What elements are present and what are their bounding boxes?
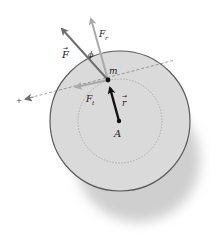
line-of-action-arrow — [26, 97, 34, 99]
angle-label: ϕ — [88, 50, 94, 59]
radial-force-label: F r — [98, 29, 109, 41]
svg-text:r: r — [105, 34, 109, 41]
mass-point — [106, 78, 111, 83]
svg-text:r: r — [122, 98, 127, 108]
pivot-label: A — [113, 128, 121, 139]
pivot-point — [117, 119, 121, 123]
mass-label: m — [109, 66, 118, 76]
svg-text:→: → — [122, 92, 127, 99]
torque-diagram: + F → F r ϕ m F t r → A — [0, 0, 221, 244]
radius-vector-label: r → — [122, 92, 127, 108]
svg-text:→: → — [63, 44, 68, 51]
line-end-marker: + — [16, 97, 22, 105]
force-label: F → — [61, 44, 70, 60]
